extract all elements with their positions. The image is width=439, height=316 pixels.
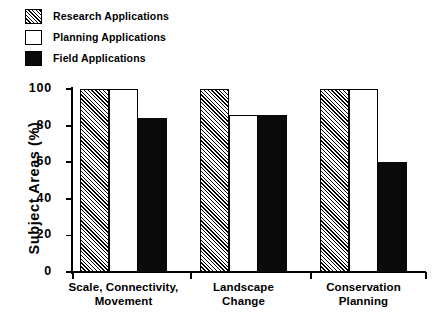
y-axis-tick-mark — [66, 161, 72, 163]
bar-chart-figure: Research Applications Planning Applicati… — [0, 0, 439, 316]
bar — [80, 89, 109, 272]
bar — [200, 89, 229, 272]
y-axis-tick-mark — [66, 198, 72, 200]
y-axis-tick-label: 40 — [36, 191, 52, 205]
legend-label-research: Research Applications — [53, 11, 169, 22]
legend-swatch-open-icon — [25, 30, 42, 45]
y-axis-tick-label: 80 — [36, 118, 52, 132]
bar — [349, 89, 378, 272]
x-axis-tick-mark — [310, 272, 312, 279]
bar — [320, 89, 349, 272]
y-axis-tick-mark — [66, 125, 72, 127]
x-axis-category-label: ConservationPlanning — [274, 281, 439, 308]
legend-item-field: Field Applications — [25, 48, 285, 69]
y-axis-tick-mark — [66, 235, 72, 237]
x-axis-tick-mark — [72, 272, 74, 279]
legend-swatch-solid-icon — [25, 51, 42, 66]
y-axis-tick-label: 20 — [36, 227, 52, 241]
legend-item-planning: Planning Applications — [25, 27, 285, 48]
y-axis-tick-label: 0 — [44, 264, 52, 278]
category-label-line: Conservation — [274, 281, 439, 295]
y-axis-tick-label: 60 — [36, 154, 52, 168]
y-axis-tick-label: 100 — [29, 81, 52, 95]
category-label-line: Planning — [274, 295, 439, 309]
legend-label-planning: Planning Applications — [53, 32, 166, 43]
x-axis-tick-mark — [425, 272, 427, 279]
chart-legend: Research Applications Planning Applicati… — [25, 6, 285, 69]
x-axis-tick-mark — [190, 272, 192, 279]
bar — [258, 115, 287, 272]
bar — [138, 118, 167, 272]
y-axis-tick-mark — [66, 88, 72, 90]
bar — [229, 115, 258, 272]
plot-area: 020406080100 — [72, 89, 425, 272]
legend-item-research: Research Applications — [25, 6, 285, 27]
legend-swatch-hatch-icon — [25, 9, 42, 24]
bar — [109, 89, 138, 272]
bar — [378, 162, 407, 272]
legend-label-field: Field Applications — [53, 53, 146, 64]
